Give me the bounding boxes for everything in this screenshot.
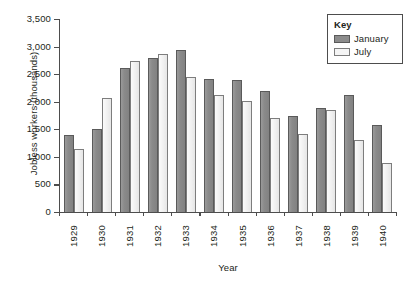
bar-group-1934 <box>200 19 228 212</box>
x-axis-tick <box>115 212 116 216</box>
x-axis-tick <box>87 212 88 216</box>
y-axis-tick: 2,500 <box>54 74 59 75</box>
x-axis-label-1939: 1939 <box>348 225 359 247</box>
x-axis-label-cell: 1931 <box>115 218 143 258</box>
bar-january-1931 <box>120 68 130 212</box>
x-axis-label-cell: 1935 <box>227 218 255 258</box>
legend-label-july: July <box>354 46 371 57</box>
x-axis-tick <box>368 212 369 216</box>
legend-swatch-july-icon <box>334 48 350 56</box>
y-axis-tick-label: 3,000 <box>27 41 51 52</box>
y-axis-tick-label: 1,500 <box>27 123 51 134</box>
y-axis-tick-label: 1,000 <box>27 151 51 162</box>
bar-january-1932 <box>148 58 158 212</box>
x-axis-tick <box>171 212 172 216</box>
bar-july-1936 <box>270 118 280 212</box>
x-axis-label-cell: 1932 <box>143 218 171 258</box>
bar-group-1935 <box>228 19 256 212</box>
x-axis-label-cell: 1937 <box>284 218 312 258</box>
bar-july-1930 <box>102 98 112 212</box>
y-axis-tick-label: 3,500 <box>27 13 51 24</box>
legend-item-january: January <box>334 33 397 44</box>
x-axis-tick <box>256 212 257 216</box>
bar-july-1934 <box>214 95 224 212</box>
x-axis-label-1936: 1936 <box>264 225 275 247</box>
y-axis-tick: 3,000 <box>54 47 59 48</box>
x-axis-title: Year <box>59 262 397 273</box>
bar-chart: Jobless workers (thousands) 05001,0001,5… <box>0 0 410 285</box>
x-axis-ticks <box>59 212 397 217</box>
bar-january-1934 <box>204 79 214 212</box>
bar-group-1937 <box>284 19 312 212</box>
x-axis-label-1940: 1940 <box>376 225 387 247</box>
x-axis-label-1938: 1938 <box>320 225 331 247</box>
bar-july-1939 <box>354 140 364 212</box>
x-axis-label-1931: 1931 <box>124 225 135 247</box>
bar-group-1930 <box>88 19 116 212</box>
bar-july-1938 <box>326 110 336 212</box>
bar-july-1931 <box>130 61 140 212</box>
x-axis-tick <box>143 212 144 216</box>
x-axis-label-cell: 1940 <box>368 218 396 258</box>
bar-january-1936 <box>260 91 270 212</box>
x-axis-tick <box>396 212 397 216</box>
legend-swatch-january-icon <box>334 35 350 43</box>
x-axis-labels: 1929193019311932193319341935193619371938… <box>59 218 397 258</box>
bar-january-1929 <box>64 135 74 212</box>
bar-july-1933 <box>186 77 196 212</box>
bar-july-1929 <box>74 149 84 212</box>
bar-january-1938 <box>316 108 326 212</box>
x-axis-tick <box>340 212 341 216</box>
bar-group-1933 <box>172 19 200 212</box>
y-axis-tick: 1,500 <box>54 129 59 130</box>
y-axis-tick: 500 <box>54 184 59 185</box>
bar-january-1939 <box>344 95 354 212</box>
bar-group-1931 <box>116 19 144 212</box>
x-axis-label-cell: 1930 <box>87 218 115 258</box>
bar-january-1933 <box>176 50 186 212</box>
x-axis-label-1934: 1934 <box>208 225 219 247</box>
x-axis-tick <box>284 212 285 216</box>
bar-july-1932 <box>158 54 168 212</box>
x-axis-label-1933: 1933 <box>180 225 191 247</box>
x-axis-label-1935: 1935 <box>236 225 247 247</box>
x-axis-label-cell: 1933 <box>171 218 199 258</box>
y-axis-tick-label: 0 <box>46 206 51 217</box>
x-axis-tick <box>312 212 313 216</box>
y-axis-tick: 1,000 <box>54 157 59 158</box>
bar-january-1935 <box>232 80 242 212</box>
x-axis-tick <box>59 212 60 216</box>
bar-july-1940 <box>382 163 392 212</box>
bar-january-1940 <box>372 125 382 212</box>
x-axis-tick <box>199 212 200 216</box>
legend-item-july: July <box>334 46 397 57</box>
x-axis-label-1932: 1932 <box>152 225 163 247</box>
y-axis-tick-label: 2,000 <box>27 96 51 107</box>
bar-january-1937 <box>288 116 298 212</box>
x-axis-label-cell: 1934 <box>199 218 227 258</box>
bar-group-1936 <box>256 19 284 212</box>
x-axis-label-cell: 1938 <box>312 218 340 258</box>
bar-january-1930 <box>92 129 102 212</box>
legend: Key January July <box>327 14 403 64</box>
x-axis-label-cell: 1936 <box>256 218 284 258</box>
x-axis-label-1937: 1937 <box>292 225 303 247</box>
y-axis-tick: 3,500 <box>54 19 59 20</box>
y-axis-tick-label: 2,500 <box>27 68 51 79</box>
bar-group-1932 <box>144 19 172 212</box>
y-axis-tick: 2,000 <box>54 102 59 103</box>
x-axis-label-1930: 1930 <box>96 225 107 247</box>
bar-group-1929 <box>60 19 88 212</box>
y-axis-tick-label: 500 <box>35 178 51 189</box>
legend-title: Key <box>334 19 397 30</box>
x-axis-label-cell: 1939 <box>340 218 368 258</box>
x-axis-tick <box>228 212 229 216</box>
legend-label-january: January <box>354 33 389 44</box>
x-axis-label-cell: 1929 <box>59 218 87 258</box>
bar-july-1937 <box>298 134 308 212</box>
bar-july-1935 <box>242 101 252 212</box>
x-axis-label-1929: 1929 <box>68 225 79 247</box>
